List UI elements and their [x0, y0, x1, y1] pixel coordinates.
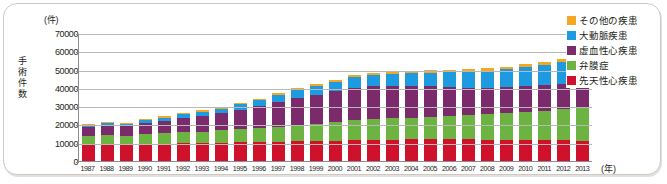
bar-segment	[348, 88, 361, 121]
bar-segment	[462, 72, 475, 88]
x-axis-tick-label: 2007	[459, 163, 478, 177]
stacked-bar[interactable]	[215, 107, 228, 161]
chart-legend: その他の疾患大動脈疾患虚血性心疾患弁膜症先天性心疾患	[566, 12, 652, 88]
legend-item[interactable]: その他の疾患	[567, 13, 652, 27]
x-axis-tick-label: 1995	[230, 163, 249, 177]
bar-segment	[424, 86, 437, 116]
bar-segment	[443, 87, 456, 116]
legend-swatch-icon	[567, 61, 576, 70]
bar-segment	[462, 88, 475, 116]
x-axis-tick-label: 2001	[344, 163, 363, 177]
bar-segment	[424, 117, 437, 139]
y-axis-unit-label: (件)	[44, 13, 58, 26]
x-axis-tick-label: 1993	[192, 163, 211, 177]
bar-segment	[177, 143, 190, 161]
bar-segment	[82, 145, 95, 161]
bar-segment	[386, 118, 399, 139]
bar-segment	[101, 145, 114, 161]
bar-segment	[272, 127, 285, 142]
x-axis-tick-label: 2008	[478, 163, 497, 177]
bar-segment	[367, 86, 380, 119]
legend-item[interactable]: 先天性心疾患	[567, 73, 652, 87]
bar-segment	[481, 114, 494, 139]
bar-segment	[462, 115, 475, 139]
stacked-bar[interactable]	[234, 103, 247, 161]
bar-segment	[253, 128, 266, 142]
stacked-bar[interactable]	[177, 113, 190, 161]
stacked-bar[interactable]	[462, 69, 475, 161]
y-axis-tick-label: 70000	[34, 29, 78, 39]
bar-segment	[405, 139, 418, 161]
x-axis-tick-label: 2000	[325, 163, 344, 177]
plot-outer: 700006000050000400003000020000100000 198…	[30, 26, 630, 166]
bar-segment	[158, 121, 171, 134]
bar-segment	[500, 87, 513, 113]
stacked-bar[interactable]	[500, 67, 513, 161]
x-axis-tick-label: 2012	[554, 163, 573, 177]
bar-segment	[424, 73, 437, 87]
stacked-bar[interactable]	[329, 80, 342, 161]
y-axis-tick-label: 20000	[34, 120, 78, 130]
bar-segment	[234, 129, 247, 142]
bar-segment	[253, 142, 266, 161]
x-axis-tick-label: 1992	[173, 163, 192, 177]
stacked-bar[interactable]	[424, 70, 437, 161]
legend-label: 弁膜症	[579, 60, 608, 71]
x-axis-tick-label: 1996	[249, 163, 268, 177]
x-axis-tick-label: 1991	[154, 163, 173, 177]
bar-segment	[120, 145, 133, 161]
x-axis-labels: 1987198819891990199119921993199419951996…	[78, 163, 592, 177]
stacked-bar[interactable]	[196, 110, 209, 161]
bar-segment	[424, 139, 437, 161]
gridline	[79, 144, 592, 145]
stacked-bar[interactable]	[481, 68, 494, 161]
bar-segment	[481, 88, 494, 115]
x-axis-tick-label: 1998	[287, 163, 306, 177]
stacked-bar[interactable]	[101, 122, 114, 161]
stacked-bar[interactable]	[158, 116, 171, 161]
bar-segment	[291, 98, 304, 125]
x-axis-tick-label: 2003	[383, 163, 402, 177]
bar-segment	[367, 119, 380, 139]
x-axis-tick-label: 2004	[402, 163, 421, 177]
stacked-bar[interactable]	[367, 73, 380, 161]
stacked-bar[interactable]	[386, 71, 399, 161]
stacked-bar[interactable]	[538, 62, 551, 161]
y-axis-tick-mark	[76, 52, 79, 53]
bar-segment	[272, 102, 285, 127]
x-axis-tick-label: 2009	[497, 163, 516, 177]
bar-segment	[82, 127, 95, 137]
stacked-bar[interactable]	[120, 123, 133, 161]
stacked-bar[interactable]	[443, 70, 456, 161]
y-axis-tick-label: 60000	[34, 47, 78, 57]
x-axis-tick-label: 2005	[421, 163, 440, 177]
x-axis-unit-label: (年)	[601, 163, 616, 175]
bar-segment	[291, 90, 304, 98]
legend-item[interactable]: 虚血性心疾患	[567, 43, 652, 57]
bar-segment	[386, 86, 399, 119]
legend-item[interactable]: 弁膜症	[567, 58, 652, 72]
bar-segment	[443, 116, 456, 139]
stacked-bar[interactable]	[519, 64, 532, 161]
y-axis-tick-label: 30000	[34, 102, 78, 112]
bar-segment	[196, 132, 209, 144]
legend-item[interactable]: 大動脈疾患	[567, 28, 652, 42]
y-axis-tick-mark	[76, 34, 79, 35]
y-axis-title-char-2: 術	[16, 67, 28, 78]
legend-swatch-icon	[567, 76, 576, 85]
bar-segment	[177, 132, 190, 143]
y-axis-tick-mark	[76, 125, 79, 126]
bar-segment	[405, 86, 418, 117]
stacked-bar[interactable]	[310, 84, 323, 161]
y-axis-tick-mark	[76, 71, 79, 72]
bar-segment	[462, 139, 475, 161]
y-axis-tick-mark	[76, 107, 79, 108]
bar-segment	[272, 95, 285, 102]
stacked-bar[interactable]	[272, 93, 285, 161]
x-axis-tick-label: 2002	[363, 163, 382, 177]
bar-segment	[348, 77, 361, 87]
stacked-bar[interactable]	[405, 71, 418, 161]
chart-screenshot: (件) 手 術 件 数 7000060000500004000030000200…	[0, 0, 667, 184]
stacked-bar[interactable]	[82, 124, 95, 161]
legend-label: 虚血性心疾患	[579, 45, 638, 56]
